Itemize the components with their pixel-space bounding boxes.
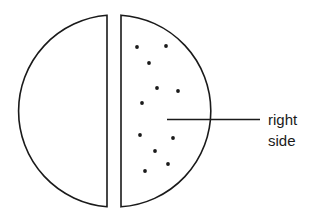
label-side: side [268, 132, 296, 149]
dot [143, 169, 147, 173]
dot [140, 101, 144, 105]
dot [153, 149, 157, 153]
right-half [121, 15, 211, 207]
dot [166, 162, 170, 166]
dot [135, 45, 139, 49]
dot [164, 44, 168, 48]
dot [176, 89, 180, 93]
label-right: right [268, 111, 298, 128]
dot [171, 136, 175, 140]
dot [138, 133, 142, 137]
dot [155, 86, 159, 90]
split-circle-diagram: right side [0, 0, 317, 217]
left-half [19, 15, 107, 206]
dot [147, 61, 151, 65]
